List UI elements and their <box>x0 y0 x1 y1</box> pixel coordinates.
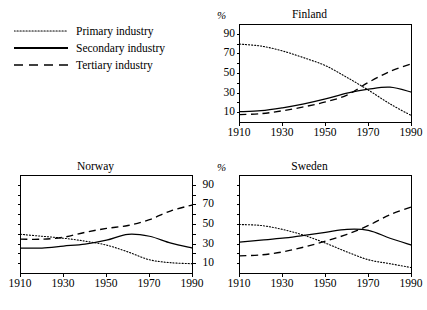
chart-finland: Finland % 103050709019101930195019701990 <box>217 8 413 143</box>
x-tick-label: 1990 <box>391 127 427 138</box>
x-tick-label: 1950 <box>86 278 126 289</box>
x-tick-label: 1930 <box>262 278 302 289</box>
x-tick-label: 1970 <box>129 278 169 289</box>
axis-unit-finland: % <box>217 9 226 21</box>
legend-label-primary: Primary industry <box>76 25 154 37</box>
y-tick-label: 50 <box>196 218 214 228</box>
x-tick-label: 1910 <box>0 278 40 289</box>
series-line-dashed <box>240 207 412 256</box>
y-tick-label: 10 <box>196 257 214 267</box>
series-line-dashed <box>21 205 193 239</box>
x-tick-label: 1910 <box>219 278 259 289</box>
x-tick-label: 1930 <box>262 127 302 138</box>
y-tick-label: 90 <box>217 28 235 38</box>
plot-svg <box>239 175 413 275</box>
x-tick-label: 1950 <box>305 127 345 138</box>
x-tick-label: 1970 <box>348 127 388 138</box>
y-tick-label: 70 <box>217 47 235 57</box>
legend-item-primary: Primary industry <box>14 22 189 39</box>
chart-title-norway: Norway <box>8 160 183 172</box>
legend: Primary industry Secondary industry Tert… <box>14 22 189 73</box>
y-tick-label: 10 <box>217 106 235 116</box>
chart-title-finland: Finland <box>222 8 397 20</box>
legend-label-secondary: Secondary industry <box>76 42 165 54</box>
x-tick-label: 1910 <box>219 127 259 138</box>
legend-item-tertiary: Tertiary industry <box>14 56 189 73</box>
axis-unit-sweden: % <box>217 161 226 173</box>
legend-line-solid-icon <box>14 42 68 54</box>
x-tick-label: 1990 <box>391 278 427 289</box>
y-tick-label: 30 <box>196 238 214 248</box>
chart-title-sweden: Sweden <box>222 160 397 172</box>
series-line-solid <box>240 87 412 112</box>
plot-svg <box>20 175 194 275</box>
legend-line-dotted-icon <box>14 25 68 37</box>
plot-frame <box>21 176 193 274</box>
legend-item-secondary: Secondary industry <box>14 39 189 56</box>
plot-svg <box>239 24 413 124</box>
series-line-dotted <box>240 44 412 116</box>
y-tick-label: 30 <box>217 87 235 97</box>
legend-line-dashed-icon <box>14 59 68 71</box>
x-tick-label: 1970 <box>348 278 388 289</box>
y-tick-label: 50 <box>217 67 235 77</box>
y-axis-labels-shared: 1030507090 <box>196 160 216 305</box>
plot-frame <box>240 176 412 274</box>
legend-label-tertiary: Tertiary industry <box>76 59 153 71</box>
y-tick-label: 70 <box>196 198 214 208</box>
chart-sweden: Sweden % 19101930195019701990 <box>217 160 413 305</box>
series-line-dotted <box>240 225 412 268</box>
x-tick-label: 1950 <box>305 278 345 289</box>
y-tick-label: 90 <box>196 179 214 189</box>
series-line-dashed <box>240 64 412 115</box>
chart-norway: Norway 19101930195019701990 <box>8 160 198 305</box>
series-line-solid <box>21 234 193 248</box>
x-tick-label: 1930 <box>43 278 83 289</box>
